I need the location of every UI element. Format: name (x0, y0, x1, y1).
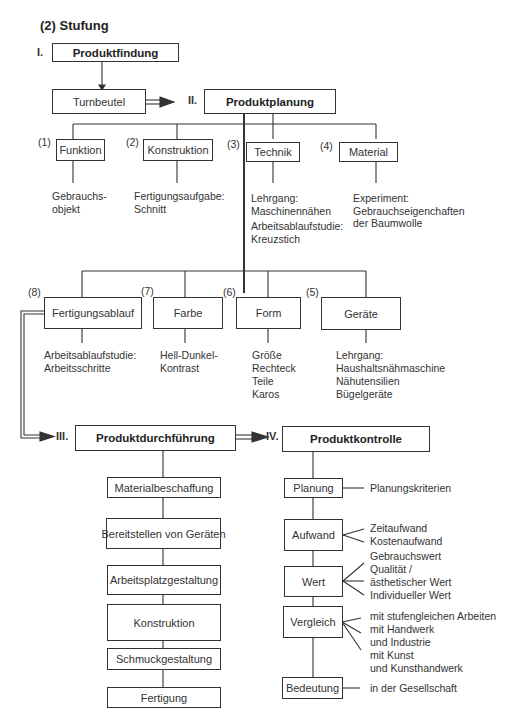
control-step-wert: Wert (284, 566, 343, 597)
planning-box-form: Form (236, 297, 301, 329)
planning-num-5: (5) (306, 286, 319, 298)
planning-box-technik: Technik (246, 142, 300, 162)
planning-note-technik: Lehrgang:MaschinennähenArbeitsablaufstud… (251, 192, 343, 245)
execution-step: Bereitstellen von Geräten (106, 518, 221, 549)
planning-num-1: (1) (38, 136, 51, 148)
planning-box-farbe: Farbe (153, 297, 223, 329)
planning-num-6: (6) (223, 286, 236, 298)
stage-iii-numeral: III. (56, 430, 68, 442)
planning-note-material: Experiment:Gebrauchseigenchaftender Baum… (353, 192, 465, 230)
planning-box-material: Material (339, 142, 398, 162)
control-note-aufwand: ZeitaufwandKostenaufwand (370, 522, 442, 548)
execution-step: Materialbeschaffung (107, 477, 221, 498)
planning-box-geraete: Geräte (321, 297, 401, 330)
planning-box-konstruktion: Konstruktion (143, 139, 213, 161)
stage-ii-numeral: II. (188, 94, 197, 106)
execution-step: Fertigung (107, 687, 221, 708)
control-note-wert: GebrauchswertQualität /ästhetischer Wert… (370, 550, 452, 602)
control-step-bedeutung: Bedeutung (282, 677, 343, 699)
stage-iii-box: Produktdurchführung (75, 425, 236, 451)
control-note-bedeutung: in der Gesellschaft (370, 682, 457, 695)
control-step-vergleich: Vergleich (283, 606, 343, 638)
planning-box-funktion: Funktion (56, 139, 105, 161)
execution-step: Schmuckgestaltung (107, 648, 221, 670)
page-title: (2) Stufung (40, 18, 109, 33)
stage-i-box: Produktfindung (52, 43, 179, 62)
product-box: Turnbeutel (52, 89, 146, 114)
control-step-planung: Planung (284, 478, 343, 498)
planning-num-7: (7) (141, 285, 154, 297)
planning-note-farbe: Hell-Dunkel-Kontrast (160, 349, 218, 375)
execution-step: Konstruktion (107, 604, 221, 641)
planning-num-2: (2) (126, 136, 139, 148)
execution-step: Arbeitsplatzgestaltung (107, 565, 221, 595)
control-step-aufwand: Aufwand (284, 519, 343, 551)
planning-note-form: GrößeRechteckTeileKaros (252, 349, 296, 401)
planning-box-fertigungsablauf: Fertigungsablauf (44, 297, 142, 329)
control-note-vergleich: mit stufengleichen Arbeitenmit Handwerku… (370, 610, 496, 675)
planning-num-3: (3) (227, 138, 240, 150)
planning-num-8: (8) (28, 286, 41, 298)
planning-note-konstruktion: Fertigungsaufgabe:Schnitt (134, 190, 224, 216)
planning-note-geraete: Lehrgang:HaushaltsnähmaschineNähutensili… (336, 349, 445, 401)
planning-note-fertigungsablauf: Arbeitsablaufstudie:Arbeitsschritte (44, 349, 136, 375)
control-note-planung: Planungskriterien (370, 482, 451, 495)
stage-iv-box: Produktkontrolle (282, 426, 430, 452)
stage-ii-box: Produktplanung (204, 89, 336, 114)
stage-iv-numeral: IV. (266, 430, 278, 442)
stage-i-numeral: I. (37, 46, 43, 58)
planning-note-funktion: Gebrauchs-objekt (52, 190, 107, 216)
planning-num-4: (4) (320, 140, 333, 152)
